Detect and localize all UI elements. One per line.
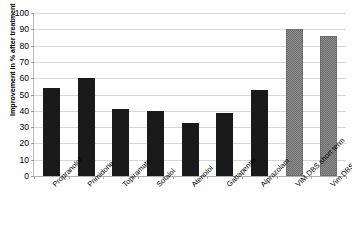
y-axis-tick-mark [31, 160, 34, 161]
bar [182, 123, 199, 176]
y-axis-tick-mark [31, 143, 34, 144]
y-axis-tick-label: 40 [19, 107, 29, 116]
x-axis-category-label: Gabapentin [225, 183, 230, 188]
bar [43, 88, 60, 176]
y-axis-tick-label: 100 [15, 9, 29, 18]
x-axis-category-label: Alprazolam [260, 183, 265, 188]
x-axis-category-label: Sotalol [156, 183, 161, 188]
y-axis-tick-label: 50 [19, 90, 29, 99]
x-axis-tick-mark [34, 176, 35, 179]
y-axis-tick-label: 30 [19, 123, 29, 132]
y-axis-tick-label: 90 [19, 25, 29, 34]
y-axis-tick-mark [31, 46, 34, 47]
bar [216, 113, 233, 176]
y-axis-tick-mark [31, 29, 34, 30]
bar-chart: Improvement in % after treatment 0102030… [0, 0, 352, 242]
y-axis-tick-mark [31, 62, 34, 63]
y-axis-tick-mark [31, 127, 34, 128]
x-axis-category-label: Topiramate [121, 183, 126, 188]
y-axis-title: Improvement in % after treatment [9, 0, 16, 135]
y-axis-tick-mark [31, 111, 34, 112]
y-axis-tick-mark [31, 13, 34, 14]
y-axis-tick-label: 80 [19, 41, 29, 50]
y-axis-tick-label: 20 [19, 139, 29, 148]
y-axis-tick-label: 0 [24, 172, 29, 181]
plot-area: 0102030405060708090100 [33, 13, 346, 176]
y-axis-tick-label: 70 [19, 58, 29, 67]
gridline [34, 13, 346, 14]
x-axis-category-label: Primidone [86, 183, 91, 188]
x-axis-category-label: Vim DBS long-term [329, 183, 334, 188]
x-axis-category-label: Propranolol [52, 183, 57, 188]
y-axis-tick-mark [31, 95, 34, 96]
y-axis-tick-label: 10 [19, 155, 29, 164]
x-axis-category-label: VIM DBS short term [294, 183, 299, 188]
bar [286, 29, 303, 176]
y-axis-tick-mark [31, 78, 34, 79]
y-axis-tick-label: 60 [19, 74, 29, 83]
x-axis-category-label: Atenolol [190, 183, 195, 188]
